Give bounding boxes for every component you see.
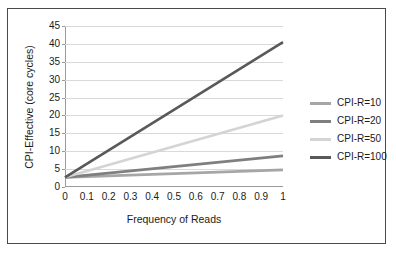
x-tick-label: 0.9 bbox=[254, 192, 268, 202]
series-line bbox=[65, 115, 283, 177]
x-axis-title: Frequency of Reads bbox=[65, 213, 283, 225]
x-tick-label: 0.1 bbox=[80, 192, 94, 202]
y-tick-label: 45 bbox=[49, 21, 60, 31]
y-tick-label: 10 bbox=[49, 146, 60, 156]
x-tick-label: 0.8 bbox=[232, 192, 246, 202]
legend-item[interactable]: CPI-R=100 bbox=[310, 151, 387, 163]
x-tick-label: 0.6 bbox=[189, 192, 203, 202]
legend-item[interactable]: CPI-R=50 bbox=[310, 133, 387, 145]
legend-swatch bbox=[310, 120, 331, 123]
chart-legend: CPI-R=10CPI-R=20CPI-R=50CPI-R=100 bbox=[310, 97, 387, 163]
legend-item[interactable]: CPI-R=20 bbox=[310, 115, 387, 127]
y-axis-title: CPI-Effective (core cycles) bbox=[22, 26, 36, 187]
legend-label: CPI-R=50 bbox=[337, 134, 381, 144]
y-tick-label: 20 bbox=[49, 110, 60, 120]
y-tick-mark bbox=[62, 187, 65, 188]
x-tick-label: 1 bbox=[280, 192, 286, 202]
y-axis-title-text: CPI-Effective (core cycles) bbox=[23, 45, 35, 169]
legend-item[interactable]: CPI-R=10 bbox=[310, 97, 387, 109]
y-tick-label: 25 bbox=[49, 93, 60, 103]
legend-label: CPI-R=20 bbox=[337, 116, 381, 126]
y-tick-label: 35 bbox=[49, 57, 60, 67]
y-tick-label: 5 bbox=[54, 164, 60, 174]
legend-swatch bbox=[310, 156, 331, 159]
x-tick-label: 0.2 bbox=[102, 192, 116, 202]
series-line bbox=[65, 42, 283, 177]
y-tick-label: 30 bbox=[49, 75, 60, 85]
legend-label: CPI-R=10 bbox=[337, 98, 381, 108]
y-tick-label: 0 bbox=[54, 182, 60, 192]
y-tick-label: 15 bbox=[49, 128, 60, 138]
legend-swatch bbox=[310, 102, 331, 105]
chart-figure-frame: 051015202530354045 00.10.20.30.40.50.60.… bbox=[7, 8, 386, 244]
plot-area: 051015202530354045 00.10.20.30.40.50.60.… bbox=[65, 26, 283, 187]
x-tick-label: 0.5 bbox=[167, 192, 181, 202]
legend-label: CPI-R=100 bbox=[337, 152, 387, 162]
x-tick-label: 0 bbox=[62, 192, 68, 202]
series-lines bbox=[65, 26, 283, 187]
x-tick-label: 0.4 bbox=[145, 192, 159, 202]
y-tick-label: 40 bbox=[49, 39, 60, 49]
x-tick-label: 0.3 bbox=[123, 192, 137, 202]
x-tick-label: 0.7 bbox=[211, 192, 225, 202]
legend-swatch bbox=[310, 138, 331, 141]
